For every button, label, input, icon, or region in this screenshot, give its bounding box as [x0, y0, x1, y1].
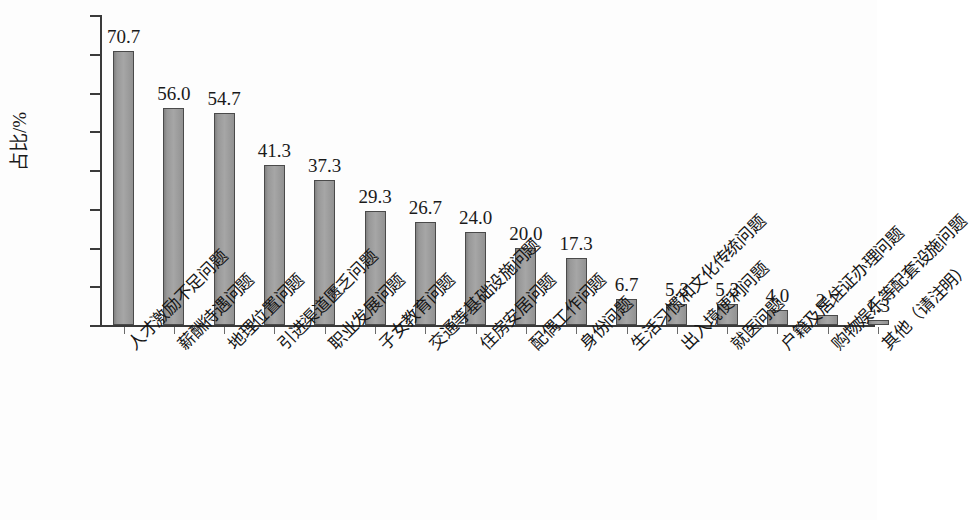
y-axis-tick-mark	[90, 325, 101, 327]
y-axis-title: 占比/%	[4, 97, 31, 187]
y-axis-tick-mark	[90, 170, 101, 172]
bar	[113, 51, 134, 325]
y-axis-tick-mark	[90, 15, 101, 17]
bar-value-label: 17.3	[546, 233, 606, 255]
y-axis-tick-mark	[90, 248, 101, 250]
y-axis-tick-mark	[90, 209, 101, 211]
bar-value-label: 37.3	[295, 155, 355, 177]
bar-value-label: 70.7	[94, 26, 154, 48]
y-axis-tick-mark	[90, 131, 101, 133]
y-axis-tick-mark	[90, 286, 101, 288]
bar-value-label: 54.7	[194, 88, 254, 110]
y-axis-tick-mark	[90, 54, 101, 56]
y-axis-tick-mark	[90, 93, 101, 95]
